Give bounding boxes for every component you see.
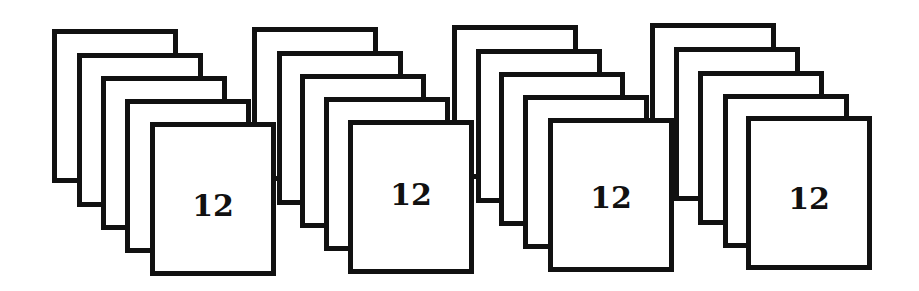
front-card: 12 <box>150 122 276 276</box>
card-number-label: 12 <box>353 180 469 210</box>
card-number-label: 12 <box>155 191 271 221</box>
card-number-label: 12 <box>553 183 669 213</box>
front-card: 12 <box>746 116 872 270</box>
card-number-label: 12 <box>751 184 867 214</box>
front-card: 12 <box>348 120 474 274</box>
front-card: 12 <box>548 118 674 272</box>
